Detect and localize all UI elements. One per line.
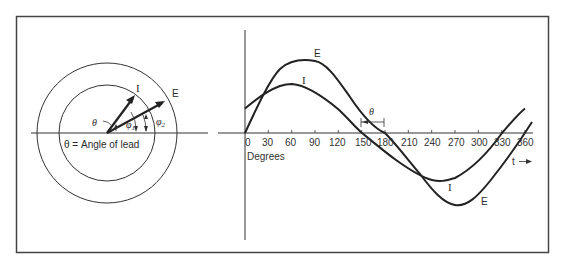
time-arrow-icon <box>526 159 532 164</box>
waveform-theta-label: θ <box>369 106 374 117</box>
tick-label-150: 150 <box>355 137 372 148</box>
phasor-current-label: I <box>136 82 140 94</box>
phi2-arrow-top-icon <box>144 114 148 119</box>
tick-label-0: 0 <box>245 137 251 148</box>
tick-label-330: 330 <box>494 137 511 148</box>
theta-pointer <box>103 121 112 126</box>
phi2-arrow-icon <box>144 126 148 132</box>
phasor-voltage-label: E <box>172 88 179 99</box>
tick-label-60: 60 <box>285 137 297 148</box>
voltage-label-bottom: E <box>481 196 488 207</box>
tick-label-300: 300 <box>471 137 488 148</box>
voltage-label-top: E <box>314 48 321 59</box>
diagram-canvas: I E θ φ1 φ2 θ = Angle of lead <box>0 0 561 268</box>
tick-label-120: 120 <box>329 137 346 148</box>
tick-label-30: 30 <box>262 137 274 148</box>
phasor-phi1-label: φ1 <box>126 119 135 132</box>
phasor-phi2-label: φ2 <box>156 116 166 129</box>
theta-bracket-arrow-icon <box>362 120 368 124</box>
tick-label-240: 240 <box>424 137 441 148</box>
current-label-bottom: I <box>448 181 452 193</box>
tick-label-360: 360 <box>517 137 534 148</box>
frame-border <box>17 17 549 253</box>
waveform-plot: θ E I I E 0 30 60 90 120 150 180 210 240… <box>245 30 534 240</box>
time-label: t <box>512 156 515 167</box>
tick-label-90: 90 <box>309 137 321 148</box>
tick-label-180: 180 <box>377 137 394 148</box>
x-unit-label: Degrees <box>247 151 285 162</box>
angle-of-lead-caption: θ = Angle of lead <box>64 139 139 150</box>
tick-label-270: 270 <box>448 137 465 148</box>
phasor-diagram: I E θ φ1 φ2 θ = Angle of lead <box>31 63 245 203</box>
current-arrowhead-icon <box>126 95 135 104</box>
tick-label-210: 210 <box>401 137 418 148</box>
phasor-theta-label: θ <box>92 117 97 128</box>
current-label-top: I <box>302 74 306 86</box>
